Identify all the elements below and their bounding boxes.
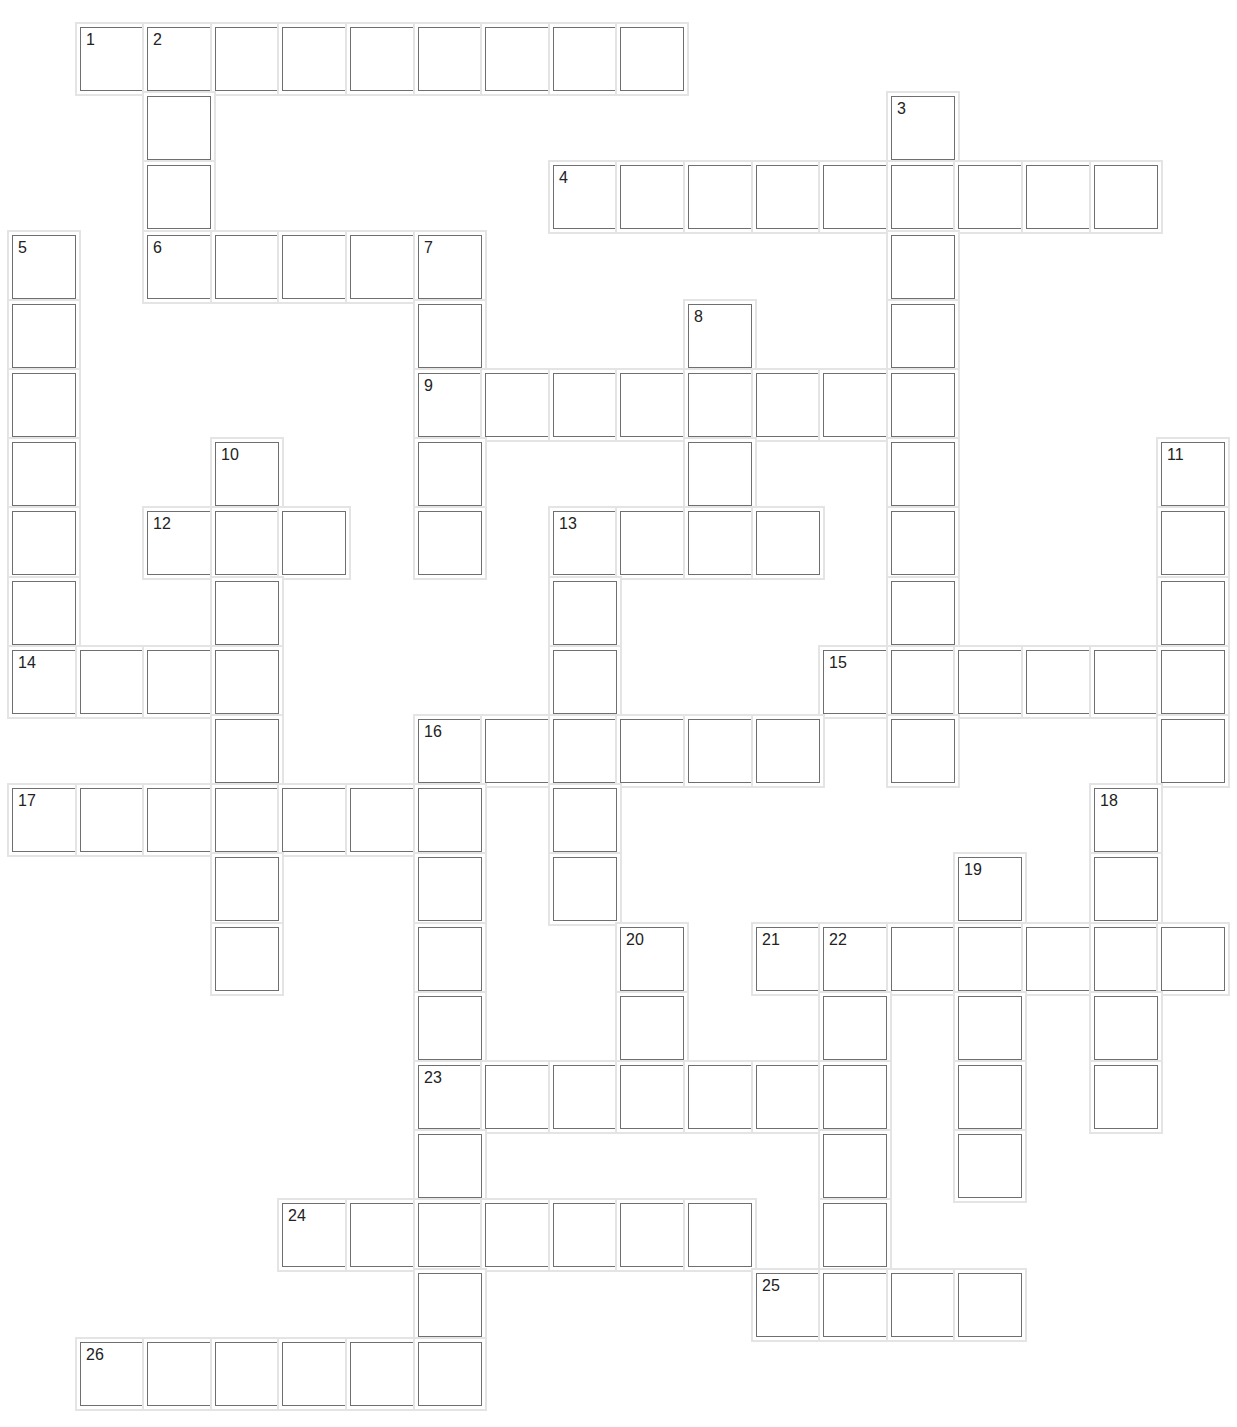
crossword-cell[interactable]: 6: [147, 235, 211, 299]
crossword-cell[interactable]: 15: [823, 650, 887, 714]
crossword-cell[interactable]: 14: [12, 650, 76, 714]
crossword-cell[interactable]: [756, 373, 820, 437]
crossword-cell[interactable]: [958, 650, 1022, 714]
crossword-cell[interactable]: [215, 927, 279, 991]
crossword-cell[interactable]: 18: [1094, 788, 1158, 852]
crossword-cell[interactable]: [1094, 165, 1158, 229]
crossword-cell[interactable]: [958, 1273, 1022, 1337]
crossword-cell[interactable]: [80, 788, 144, 852]
crossword-cell[interactable]: [485, 373, 549, 437]
crossword-cell[interactable]: [553, 719, 617, 783]
crossword-cell[interactable]: [80, 650, 144, 714]
crossword-cell[interactable]: 1: [80, 27, 144, 91]
crossword-cell[interactable]: [350, 1342, 414, 1406]
crossword-cell[interactable]: [418, 27, 482, 91]
crossword-cell[interactable]: [1094, 857, 1158, 921]
crossword-cell[interactable]: [553, 788, 617, 852]
crossword-cell[interactable]: [1161, 927, 1225, 991]
crossword-cell[interactable]: [418, 1134, 482, 1198]
crossword-cell[interactable]: 2: [147, 27, 211, 91]
crossword-cell[interactable]: [1094, 996, 1158, 1060]
crossword-cell[interactable]: [215, 235, 279, 299]
crossword-cell[interactable]: [147, 96, 211, 160]
crossword-cell[interactable]: [1026, 165, 1090, 229]
crossword-cell[interactable]: [891, 373, 955, 437]
crossword-cell[interactable]: 17: [12, 788, 76, 852]
crossword-cell[interactable]: [891, 927, 955, 991]
crossword-cell[interactable]: [756, 511, 820, 575]
crossword-cell[interactable]: [958, 1065, 1022, 1129]
crossword-cell[interactable]: [823, 165, 887, 229]
crossword-cell[interactable]: [620, 511, 684, 575]
crossword-cell[interactable]: [282, 1342, 346, 1406]
crossword-cell[interactable]: [12, 581, 76, 645]
crossword-cell[interactable]: [688, 165, 752, 229]
crossword-cell[interactable]: [282, 27, 346, 91]
crossword-cell[interactable]: [12, 373, 76, 437]
crossword-cell[interactable]: [688, 511, 752, 575]
crossword-cell[interactable]: [620, 1065, 684, 1129]
crossword-cell[interactable]: 26: [80, 1342, 144, 1406]
crossword-cell[interactable]: [282, 788, 346, 852]
crossword-cell[interactable]: [553, 857, 617, 921]
crossword-cell[interactable]: 13: [553, 511, 617, 575]
crossword-cell[interactable]: [756, 165, 820, 229]
crossword-cell[interactable]: [12, 442, 76, 506]
crossword-cell[interactable]: 24: [282, 1203, 346, 1267]
crossword-cell[interactable]: [350, 1203, 414, 1267]
crossword-cell[interactable]: [891, 235, 955, 299]
crossword-cell[interactable]: [485, 27, 549, 91]
crossword-cell[interactable]: [147, 788, 211, 852]
crossword-cell[interactable]: [1094, 1065, 1158, 1129]
crossword-cell[interactable]: [620, 996, 684, 1060]
crossword-cell[interactable]: [350, 27, 414, 91]
crossword-cell[interactable]: 11: [1161, 442, 1225, 506]
crossword-cell[interactable]: 21: [756, 927, 820, 991]
crossword-cell[interactable]: [215, 1342, 279, 1406]
crossword-cell[interactable]: [891, 719, 955, 783]
crossword-cell[interactable]: [418, 927, 482, 991]
crossword-cell[interactable]: [823, 1065, 887, 1129]
crossword-cell[interactable]: [418, 857, 482, 921]
crossword-cell[interactable]: 8: [688, 304, 752, 368]
crossword-cell[interactable]: [147, 165, 211, 229]
crossword-cell[interactable]: [756, 719, 820, 783]
crossword-cell[interactable]: [891, 511, 955, 575]
crossword-cell[interactable]: [553, 650, 617, 714]
crossword-cell[interactable]: [958, 165, 1022, 229]
crossword-cell[interactable]: [418, 1203, 482, 1267]
crossword-cell[interactable]: [891, 650, 955, 714]
crossword-cell[interactable]: [147, 1342, 211, 1406]
crossword-cell[interactable]: [823, 1203, 887, 1267]
crossword-cell[interactable]: [688, 719, 752, 783]
crossword-cell[interactable]: [688, 373, 752, 437]
crossword-cell[interactable]: [823, 1134, 887, 1198]
crossword-cell[interactable]: [485, 1203, 549, 1267]
crossword-cell[interactable]: [1161, 650, 1225, 714]
crossword-cell[interactable]: [688, 442, 752, 506]
crossword-cell[interactable]: [418, 1342, 482, 1406]
crossword-cell[interactable]: [215, 27, 279, 91]
crossword-cell[interactable]: 16: [418, 719, 482, 783]
crossword-cell[interactable]: [1094, 927, 1158, 991]
crossword-cell[interactable]: [553, 27, 617, 91]
crossword-cell[interactable]: [958, 927, 1022, 991]
crossword-cell[interactable]: [418, 304, 482, 368]
crossword-cell[interactable]: [756, 1065, 820, 1129]
crossword-cell[interactable]: [418, 442, 482, 506]
crossword-cell[interactable]: [215, 650, 279, 714]
crossword-cell[interactable]: [350, 788, 414, 852]
crossword-cell[interactable]: [282, 511, 346, 575]
crossword-cell[interactable]: [688, 1203, 752, 1267]
crossword-cell[interactable]: [891, 1273, 955, 1337]
crossword-cell[interactable]: [215, 788, 279, 852]
crossword-cell[interactable]: [1026, 650, 1090, 714]
crossword-cell[interactable]: 5: [12, 235, 76, 299]
crossword-cell[interactable]: [553, 1065, 617, 1129]
crossword-cell[interactable]: [1161, 581, 1225, 645]
crossword-cell[interactable]: 9: [418, 373, 482, 437]
crossword-cell[interactable]: [620, 27, 684, 91]
crossword-cell[interactable]: [282, 235, 346, 299]
crossword-cell[interactable]: [891, 442, 955, 506]
crossword-cell[interactable]: 7: [418, 235, 482, 299]
